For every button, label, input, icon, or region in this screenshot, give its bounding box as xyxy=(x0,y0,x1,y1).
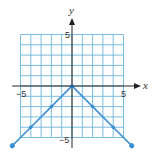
x-max-label: 5 xyxy=(121,89,126,99)
data-point xyxy=(50,105,54,109)
y-axis-label: y xyxy=(68,4,74,16)
data-point xyxy=(70,84,74,88)
x-axis-label: x xyxy=(142,79,148,91)
data-point xyxy=(111,125,115,129)
graph-canvas: −5 5 5 −5 y x xyxy=(0,0,156,157)
y-max-label: 5 xyxy=(65,30,70,40)
y-min-label: −5 xyxy=(59,135,69,145)
data-point xyxy=(29,125,33,129)
x-min-label: −5 xyxy=(16,89,26,99)
data-point xyxy=(91,105,95,109)
